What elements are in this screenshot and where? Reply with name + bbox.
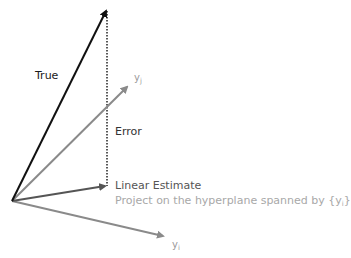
projection-note-pre: Project on the hyperplane spanned by {y — [115, 194, 342, 207]
linear-estimate-label: Linear Estimate — [115, 180, 201, 191]
true-label: True — [35, 70, 58, 81]
yj-label: yj — [134, 73, 142, 85]
true-vector — [12, 11, 106, 201]
projection-note-post: } — [344, 194, 351, 207]
yj-vector — [12, 87, 127, 201]
yi-label-sub: i — [178, 244, 180, 252]
yj-label-sub: j — [140, 77, 142, 85]
error-label: Error — [115, 126, 142, 137]
projection-note: Project on the hyperplane spanned by {yi… — [115, 195, 351, 208]
yi-label: yi — [172, 240, 180, 252]
